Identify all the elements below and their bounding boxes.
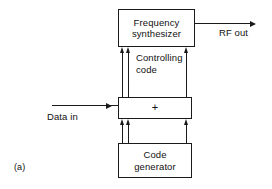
label-rf-out: RF out [219, 27, 248, 39]
label-data-in: Data in [47, 111, 78, 123]
block-frequency-synthesizer-line2: synthesizer [132, 28, 181, 40]
block-frequency-synthesizer-line1: Frequency [134, 17, 180, 29]
controlling-code-arrowhead-icon-3 [184, 47, 188, 53]
block-code-generator-line1: Code [143, 149, 166, 161]
label-controlling-code: Controlling code [136, 52, 183, 75]
block-code-generator: Code generator [118, 143, 192, 178]
block-adder: + [118, 97, 192, 119]
code-bus-arrowhead-icon-3 [184, 119, 188, 125]
controlling-code-arrowhead-icon-1 [120, 47, 124, 53]
data-in-arrowhead-icon [106, 103, 112, 109]
code-bus-line-2 [128, 124, 129, 143]
figure-caption: (a) [14, 162, 25, 174]
rf-out-arrowhead-icon [250, 21, 256, 27]
label-controlling-code-line1: Controlling [136, 52, 183, 64]
controlling-code-bus-line-3 [186, 52, 187, 97]
code-bus-arrowhead-icon-1 [120, 119, 124, 125]
block-frequency-synthesizer: Frequency synthesizer [118, 9, 195, 47]
code-bus-line-3 [186, 124, 187, 143]
controlling-code-bus-line-1 [122, 52, 123, 97]
label-controlling-code-line2: code [136, 64, 183, 76]
controlling-code-arrowhead-icon-2 [126, 47, 130, 53]
code-bus-arrowhead-icon-2 [126, 119, 130, 125]
block-adder-symbol: + [152, 102, 159, 114]
rf-out-connector-line [195, 23, 252, 24]
block-code-generator-line2: generator [134, 161, 176, 173]
controlling-code-bus-line-2 [128, 52, 129, 97]
block-diagram-figure: Frequency synthesizer RF out Controlling… [0, 0, 272, 189]
code-bus-line-1 [122, 124, 123, 143]
